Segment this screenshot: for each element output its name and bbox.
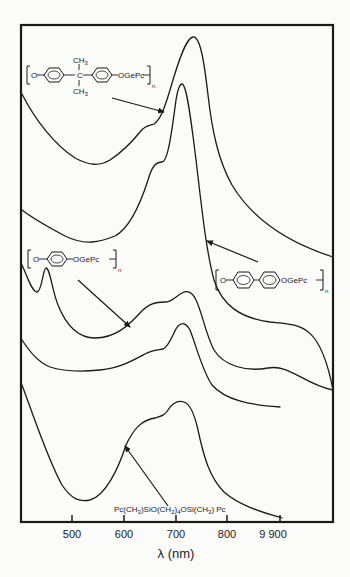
svg-text:CH3: CH3 <box>73 56 89 66</box>
structure-label-biphenyl: O OGePc n <box>216 270 328 294</box>
x-tick-label-800: 800 <box>218 528 236 540</box>
x-tick-label-900: 9 900 <box>259 528 287 540</box>
arrow-to-bisphenol <box>112 98 164 112</box>
svg-text:CH3: CH3 <box>73 87 89 97</box>
spectrum-si-bridged-pc <box>22 385 282 518</box>
svg-text:n: n <box>152 83 155 89</box>
arrow-to-biphenyl <box>207 241 258 262</box>
svg-text:n: n <box>118 267 121 273</box>
plot-frame <box>21 25 333 522</box>
svg-text:O: O <box>33 255 39 264</box>
svg-text:n: n <box>325 288 328 294</box>
svg-text:OGePc: OGePc <box>73 255 99 264</box>
structure-label-bisphenol: O C CH3 CH3 OGePc n <box>27 56 155 97</box>
structure-label-hydroquinone: O OGePc n <box>28 250 121 273</box>
x-axis-title: λ (nm) <box>158 546 195 561</box>
arrow-to-hydroquinone <box>78 280 130 327</box>
svg-text:C: C <box>77 71 83 80</box>
svg-text:O: O <box>220 276 226 285</box>
spectrum-intermediate <box>22 324 280 407</box>
structure-label-si-dimer: Pc(CH3)SiO(CH2)4OSi(CH3) Pc <box>114 505 226 515</box>
svg-text:OGePc: OGePc <box>118 71 144 80</box>
spectrum-bisphenol-gepc <box>22 37 333 257</box>
absorption-spectra-chart: 500 600 700 800 9 900 λ (nm) O C CH3 C <box>0 0 350 577</box>
x-tick-label-600: 600 <box>115 528 133 540</box>
x-tick-label-500: 500 <box>63 528 81 540</box>
arrow-to-si-dimer <box>125 446 168 506</box>
svg-text:OGePc: OGePc <box>281 276 307 285</box>
svg-text:O: O <box>31 71 37 80</box>
x-tick-label-700: 700 <box>167 528 185 540</box>
